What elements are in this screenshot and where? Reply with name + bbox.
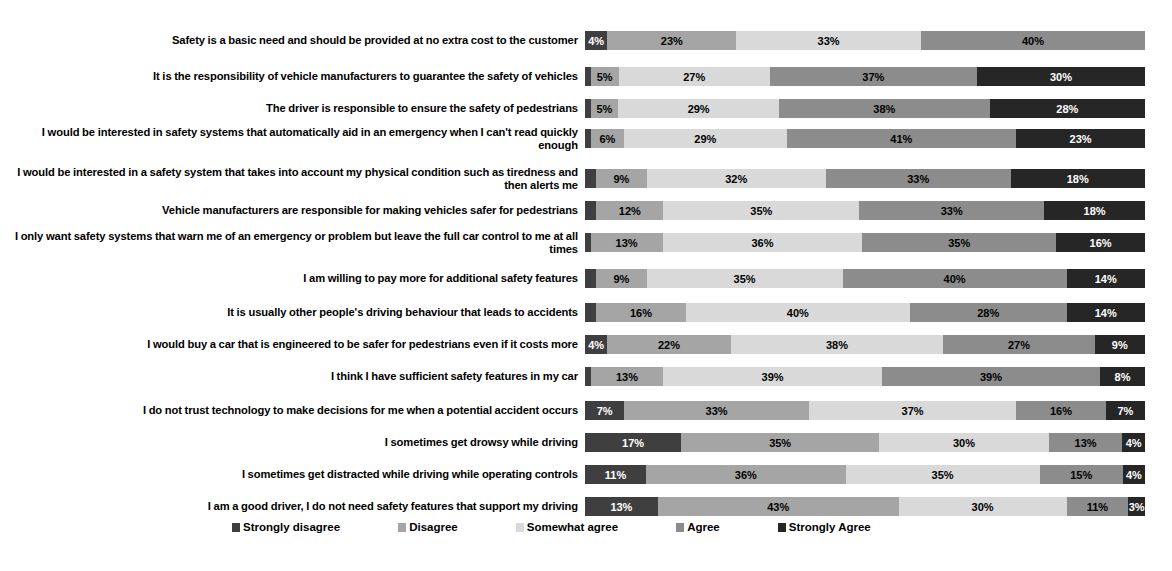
bar-segment-value: 16%	[1090, 237, 1112, 249]
stacked-bar: 9%32%33%18%	[585, 169, 1145, 188]
bar-segment-value: 17%	[622, 437, 644, 449]
bar-segment: 9%	[596, 169, 646, 188]
chart-category-label: I would be interested in a safety system…	[0, 166, 585, 192]
chart-category-label: I am willing to pay more for additional …	[0, 272, 585, 285]
legend-swatch-icon	[778, 523, 786, 532]
bar-segment-value: 35%	[948, 237, 970, 249]
stacked-bar: 4%22%38%27%9%	[585, 335, 1145, 354]
legend-item[interactable]: Strongly Agree	[778, 521, 871, 533]
bar-segment: 8%	[1100, 367, 1145, 386]
bar-segment: 16%	[1056, 233, 1145, 252]
chart-category-label: I sometimes get distracted while driving…	[0, 468, 585, 481]
bar-segment: 33%	[736, 31, 921, 50]
bar-segment: 16%	[596, 303, 686, 322]
chart-category-label: Vehicle manufacturers are responsible fo…	[0, 204, 585, 217]
bar-segment: 6%	[591, 129, 625, 148]
bar-segment-value: 36%	[735, 469, 757, 481]
bar-segment: 23%	[607, 31, 736, 50]
chart-category-label: The driver is responsible to ensure the …	[0, 102, 585, 115]
stacked-bar: 11%36%35%15%4%	[585, 465, 1145, 484]
bar-segment: 36%	[646, 465, 846, 484]
chart-category-label: I am a good driver, I do not need safety…	[0, 500, 585, 513]
bar-segment: 36%	[663, 233, 863, 252]
chart-row: I would buy a car that is engineered to …	[0, 335, 1160, 354]
bar-segment-value: 16%	[1050, 405, 1072, 417]
legend-label: Disagree	[409, 521, 458, 533]
bar-segment-value: 40%	[1022, 35, 1044, 47]
bar-segment-value: 5%	[596, 103, 612, 115]
bar-segment: 7%	[1106, 401, 1145, 420]
bar-segment: 4%	[1122, 433, 1145, 452]
bar-segment-value: 13%	[616, 237, 638, 249]
legend-swatch-icon	[676, 523, 684, 532]
bar-segment: 39%	[663, 367, 881, 386]
bar-segment-value: 29%	[688, 103, 710, 115]
bar-segment-value: 30%	[1050, 71, 1072, 83]
bar-segment	[585, 303, 596, 322]
bar-segment-value: 35%	[932, 469, 954, 481]
stacked-bar: 4%23%33%40%	[585, 31, 1145, 50]
bar-segment-value: 33%	[907, 173, 929, 185]
chart-row: It is the responsibility of vehicle manu…	[0, 67, 1160, 86]
chart-category-label: I would be interested in safety systems …	[0, 126, 585, 152]
legend-label: Somewhat agree	[527, 521, 618, 533]
bar-segment-value: 27%	[1008, 339, 1030, 351]
legend-item[interactable]: Agree	[676, 521, 720, 533]
legend-label: Agree	[687, 521, 720, 533]
chart-category-label: It is usually other people's driving beh…	[0, 306, 585, 319]
chart-row: I would be interested in safety systems …	[0, 129, 1160, 148]
bar-segment: 43%	[658, 497, 899, 516]
chart-row: I think I have sufficient safety feature…	[0, 367, 1160, 386]
bar-segment: 23%	[1016, 129, 1145, 148]
stacked-bar: 13%43%30%11%3%	[585, 497, 1145, 516]
bar-segment-value: 15%	[1070, 469, 1092, 481]
bar-segment: 41%	[787, 129, 1017, 148]
chart-row: I am willing to pay more for additional …	[0, 269, 1160, 288]
bar-segment-value: 3%	[1129, 501, 1145, 513]
stacked-bar: 5%29%38%28%	[585, 99, 1145, 118]
bar-segment: 40%	[686, 303, 910, 322]
bar-segment-value: 13%	[616, 371, 638, 383]
bar-segment: 37%	[770, 67, 977, 86]
stacked-bar: 6%29%41%23%	[585, 129, 1145, 148]
bar-segment: 39%	[882, 367, 1100, 386]
bar-segment-value: 29%	[694, 133, 716, 145]
bar-segment-value: 38%	[873, 103, 895, 115]
bar-segment: 40%	[921, 31, 1145, 50]
legend-item[interactable]: Somewhat agree	[516, 521, 618, 533]
bar-segment: 35%	[846, 465, 1040, 484]
bar-segment-value: 35%	[769, 437, 791, 449]
chart-row: The driver is responsible to ensure the …	[0, 99, 1160, 118]
bar-segment-value: 5%	[597, 71, 613, 83]
legend-item[interactable]: Disagree	[398, 521, 458, 533]
bar-segment: 9%	[596, 269, 646, 288]
bar-segment: 28%	[990, 99, 1145, 118]
bar-segment-value: 11%	[605, 469, 626, 481]
legend-swatch-icon	[232, 523, 240, 532]
bar-segment-value: 43%	[767, 501, 789, 513]
chart-row: I only want safety systems that warn me …	[0, 233, 1160, 252]
bar-segment: 27%	[943, 335, 1094, 354]
chart-row: I do not trust technology to make decisi…	[0, 401, 1160, 420]
bar-segment-value: 6%	[599, 133, 615, 145]
bar-segment-value: 13%	[1075, 437, 1097, 449]
legend-item[interactable]: Strongly disagree	[232, 521, 340, 533]
chart-category-label: Safety is a basic need and should be pro…	[0, 34, 585, 47]
bar-segment: 38%	[779, 99, 990, 118]
bar-segment	[585, 201, 596, 220]
bar-segment: 17%	[585, 433, 681, 452]
bar-segment: 27%	[619, 67, 770, 86]
bar-segment-value: 37%	[902, 405, 924, 417]
bar-segment-value: 35%	[750, 205, 772, 217]
bar-segment: 4%	[585, 31, 607, 50]
bar-segment: 33%	[859, 201, 1044, 220]
bar-segment-value: 23%	[1070, 133, 1092, 145]
bar-segment-value: 30%	[953, 437, 975, 449]
bar-segment: 11%	[1067, 497, 1129, 516]
bar-segment	[585, 169, 596, 188]
bar-segment: 22%	[607, 335, 730, 354]
bar-segment-value: 33%	[818, 35, 840, 47]
legend-swatch-icon	[516, 523, 524, 532]
bar-segment: 30%	[879, 433, 1049, 452]
bar-segment-value: 11%	[1087, 501, 1108, 513]
